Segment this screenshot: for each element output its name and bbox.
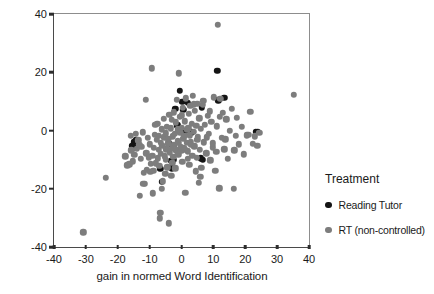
x-axis-tick [244,245,247,249]
x-axis-tick [148,245,151,249]
data-point [159,186,165,192]
legend-item-label: Reading Tutor [339,199,402,211]
data-point [213,149,219,155]
x-axis-tick-label: -10 [142,253,158,265]
scatter-plot-figure: gain in normed Passage Comprehension -40… [0,0,434,294]
data-point [186,162,192,168]
data-point [207,108,213,114]
x-axis-tick-label: 20 [239,253,251,265]
data-point [200,98,206,104]
y-axis-tick-label: 40 [35,8,47,20]
x-axis-tick-label: -20 [110,253,126,265]
x-axis-tick-label: 0 [178,253,184,265]
data-point [172,165,178,171]
x-axis-tick-label: -40 [46,253,62,265]
data-point [143,96,149,102]
data-point [141,180,147,186]
data-point [176,70,182,76]
data-point [254,142,260,148]
y-axis-tick [49,71,54,74]
legend-item-reading-tutor[interactable]: Reading Tutor [325,199,434,211]
data-point [160,178,166,184]
data-point [181,133,187,139]
data-point [137,193,143,199]
data-point [225,156,231,162]
data-point [145,135,151,141]
y-axis-tick-label: -40 [31,241,47,253]
y-axis-tick-label: 20 [35,66,47,78]
data-point [122,153,128,159]
y-axis-tick [49,129,54,132]
data-point [196,115,202,121]
data-point [198,165,204,171]
x-axis-tick [116,245,119,249]
data-point [148,65,154,71]
y-axis-tick [49,13,54,16]
data-point [215,22,221,28]
data-point [229,106,235,112]
data-point [231,147,237,153]
x-axis-tick-label: 40 [303,253,315,265]
x-axis-title: gain in normed Word Identification [53,270,311,282]
data-point [80,229,86,235]
y-axis-tick-label: 0 [41,125,47,137]
data-point [160,116,166,122]
data-point [192,107,198,113]
data-point [231,186,237,192]
plot-area: -40-2002040-40-30-20-10010203040 [53,13,310,248]
legend-marker-icon [325,227,332,234]
data-point [190,92,196,98]
data-point [221,146,227,152]
data-point [150,190,156,196]
legend-marker-icon [325,202,332,209]
x-axis-tick [180,245,183,249]
data-point [152,121,158,127]
x-axis-tick [212,245,215,249]
x-axis-tick [53,245,56,249]
data-point [199,156,205,162]
data-point [223,116,229,122]
x-axis-tick-label: 30 [271,253,283,265]
data-point [181,118,187,124]
y-axis-tick-label: -20 [31,183,47,195]
legend-item-label: RT (non-controlled) [339,224,425,236]
data-point [241,151,247,157]
data-point [290,92,296,98]
x-axis-tick [85,245,88,249]
data-point [217,96,223,102]
data-point [207,157,213,163]
legend-title: Treatment [325,172,434,186]
data-point [102,174,108,180]
data-point [176,88,182,94]
legend-item-rt-non-controlled[interactable]: RT (non-controlled) [325,224,434,236]
data-points-layer [54,14,309,247]
data-point [137,156,143,162]
data-point [236,141,242,147]
data-point [247,109,253,115]
data-point [239,124,245,130]
x-axis-tick [276,245,279,249]
data-point [191,101,197,107]
data-point [185,110,191,116]
data-point [212,167,218,173]
data-point [168,173,174,179]
data-point [157,209,163,215]
x-axis-tick-label: 10 [207,253,219,265]
data-point [213,123,219,129]
y-axis-tick [49,187,54,190]
data-point [197,174,203,180]
data-point [232,133,238,139]
x-axis-tick [308,245,311,249]
x-axis-tick-label: -30 [78,253,94,265]
legend: Treatment Reading Tutor RT (non-controll… [325,172,434,249]
data-point [214,68,220,74]
data-point [203,150,209,156]
data-point [182,190,188,196]
data-point [130,158,136,164]
data-point [166,220,172,226]
data-point [150,167,156,173]
data-point [203,134,209,140]
data-point [256,130,262,136]
data-point [157,215,163,221]
data-point [216,185,222,191]
